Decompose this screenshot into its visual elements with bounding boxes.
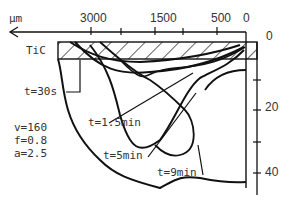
right-tick-20: 20 <box>265 101 278 113</box>
wear-profile-drawing <box>0 0 289 210</box>
right-axis <box>246 42 261 195</box>
param-v: v=160 <box>14 121 47 134</box>
right-tick-0: 0 <box>266 30 273 42</box>
tic-label: TiC <box>26 45 46 56</box>
unit-label-um: μm <box>9 13 22 24</box>
param-f: f=0.8 <box>14 134 47 147</box>
top-tick-3000: 3000 <box>80 12 107 24</box>
top-tick-500: 500 <box>211 12 231 24</box>
right-tick-40: 40 <box>265 166 278 178</box>
top-tick-1500: 1500 <box>150 12 177 24</box>
top-tick-0: 0 <box>243 12 250 24</box>
param-a: a=2.5 <box>14 147 47 160</box>
curve-label-t-1-5min: t=1.5min <box>88 117 141 128</box>
curve-label-t-5min: t=5min <box>103 150 143 161</box>
curve-label-t-9min: t=9min <box>157 167 197 178</box>
top-axis <box>10 27 246 42</box>
curve-label-t-30s: t=30s <box>24 86 57 97</box>
parameters-block: v=160 f=0.8 a=2.5 <box>14 121 47 160</box>
